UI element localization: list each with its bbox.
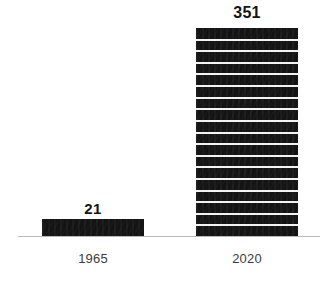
- category-label-2020: 2020: [196, 251, 298, 266]
- bar-stripe: [196, 108, 298, 110]
- bar-stripe: [196, 190, 298, 192]
- bar-texture-2020: [196, 28, 298, 237]
- bar-stripe: [196, 62, 298, 64]
- bar-stripe: [196, 132, 298, 134]
- bar-stripe: [196, 39, 298, 41]
- bar-stripe: [196, 166, 298, 168]
- bar-texture-1965: [42, 219, 144, 237]
- bar-stripe: [196, 120, 298, 122]
- x-axis-baseline: [18, 236, 320, 237]
- bar-stripe: [196, 73, 298, 75]
- bar-stripe: [196, 85, 298, 87]
- bar-value-label-1965: 21: [42, 200, 144, 217]
- bar-value-label-2020: 351: [196, 4, 298, 22]
- category-label-1965: 1965: [42, 251, 144, 266]
- bar-chart-plot-area: 21 351 1965 2020: [0, 0, 336, 284]
- bar-1965[interactable]: [42, 219, 144, 237]
- bar-stripe: [196, 143, 298, 145]
- bar-stripe: [196, 201, 298, 203]
- bar-stripes-2020: [196, 28, 298, 237]
- bar-stripe: [196, 224, 298, 226]
- bar-stripe: [196, 50, 298, 52]
- bar-stripe: [196, 97, 298, 99]
- bar-2020[interactable]: [196, 28, 298, 237]
- bar-stripe: [196, 213, 298, 215]
- chart-canvas: 21 351 1965 2020: [0, 0, 336, 284]
- bar-stripe: [196, 155, 298, 157]
- bar-stripe: [196, 178, 298, 180]
